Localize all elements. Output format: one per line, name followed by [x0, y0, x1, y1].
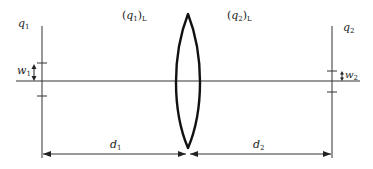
label-q2-base: q: [343, 21, 350, 34]
label-q2L-subscript: L: [247, 15, 252, 23]
label-w1-sub: 1: [26, 70, 30, 78]
w1-arrow-icon: [32, 64, 37, 81]
label-w2-base: w: [345, 69, 354, 80]
label-d1-base: d: [110, 138, 117, 151]
label-q1-lens: (q1)L: [122, 10, 147, 23]
label-q1-sub: 1: [25, 23, 29, 31]
label-w2-sub: 2: [354, 74, 358, 82]
w2-arrow-icon: [340, 71, 344, 81]
label-q1: q1: [18, 18, 30, 31]
label-d1-sub: 1: [117, 144, 121, 152]
label-q2-lens: (q2)L: [227, 10, 252, 23]
label-q1-base: q: [18, 17, 25, 30]
lens-diagram: [0, 0, 373, 169]
label-q1L-subscript: L: [142, 15, 147, 23]
label-w1-base: w: [17, 64, 26, 77]
label-d2: d2: [253, 139, 265, 152]
label-d2-base: d: [253, 138, 260, 151]
label-w1: w1: [17, 65, 31, 78]
label-q2: q2: [343, 22, 355, 35]
label-d1: d1: [110, 139, 122, 152]
label-q2-sub: 2: [350, 27, 354, 35]
label-d2-sub: 2: [260, 144, 264, 152]
label-w2: w2: [345, 70, 358, 82]
